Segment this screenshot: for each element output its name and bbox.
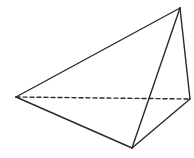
tetrahedron-figure: [0, 0, 194, 158]
edge-left-right-hidden: [16, 97, 190, 99]
vertex-apex: [179, 7, 180, 8]
vertex-right: [189, 98, 190, 99]
vertex-left: [15, 96, 16, 97]
edge-left-bottom: [16, 97, 132, 148]
vertex-bottom: [131, 147, 132, 148]
edge-apex-left: [16, 8, 180, 97]
tetrahedron-diagram: [0, 0, 194, 158]
edge-apex-right: [180, 8, 190, 99]
